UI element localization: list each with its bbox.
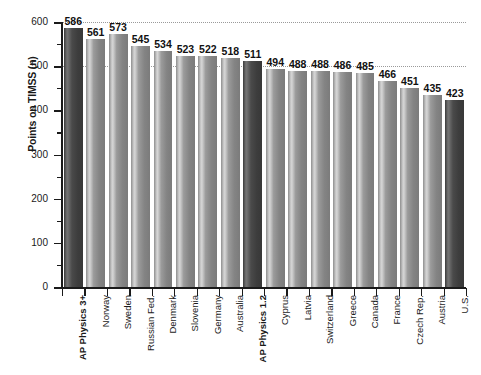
x-axis-label: Switzerland: [324, 295, 335, 344]
bar[interactable]: [311, 71, 330, 287]
x-tick: [197, 288, 198, 296]
bar[interactable]: [356, 73, 375, 287]
y-minor-tick-450: [57, 88, 61, 89]
y-minor-tick-250: [57, 177, 61, 178]
y-minor-tick-50: [57, 265, 61, 266]
bar[interactable]: [221, 58, 240, 287]
bar-group[interactable]: [176, 56, 195, 287]
bar-group[interactable]: [243, 61, 262, 287]
y-tick-label-200: 200: [8, 193, 48, 204]
x-tick: [286, 288, 287, 296]
bar[interactable]: [378, 81, 397, 287]
bar-group[interactable]: [198, 56, 217, 287]
x-tick: [152, 288, 153, 296]
x-tick: [264, 288, 265, 296]
bar-group[interactable]: [378, 81, 397, 287]
bar-chart: Points on TIMSS (n) 01002003004005006005…: [0, 0, 481, 375]
y-tick-label-0: 0: [8, 281, 48, 292]
bar[interactable]: [333, 72, 352, 287]
x-tick: [309, 288, 310, 296]
x-axis-label: Cyprus: [279, 295, 290, 325]
x-tick: [421, 288, 422, 296]
y-minor-tick-550: [57, 44, 61, 45]
x-axis-label: Greece: [347, 295, 358, 326]
y-tick-label-500: 500: [8, 60, 48, 71]
bar-group[interactable]: [154, 51, 173, 287]
x-tick: [107, 288, 108, 296]
x-tick: [219, 288, 220, 296]
y-tick-label-400: 400: [8, 104, 48, 115]
y-tick-label-600: 600: [8, 16, 48, 27]
x-axis-label: Australia: [234, 295, 245, 332]
x-tick: [84, 288, 85, 296]
y-tick-label-300: 300: [8, 149, 48, 160]
x-tick: [444, 288, 445, 296]
bar[interactable]: [131, 46, 150, 287]
x-tick: [129, 288, 130, 296]
y-tick-200: [54, 199, 61, 201]
bar[interactable]: [86, 39, 105, 287]
y-tick-label-100: 100: [8, 237, 48, 248]
x-axis-label: Norway: [100, 295, 111, 327]
bar[interactable]: [198, 56, 217, 287]
x-tick: [242, 288, 243, 296]
bar-group[interactable]: [266, 69, 285, 287]
x-axis-label: AP Physics 1.2: [257, 295, 268, 362]
x-axis-label: AP Physics 3+: [77, 295, 88, 360]
x-axis-label: Canada: [369, 295, 380, 328]
x-axis-label: Germany: [212, 295, 223, 334]
y-minor-tick-350: [57, 132, 61, 133]
bar-group[interactable]: [445, 100, 464, 287]
x-tick: [399, 288, 400, 296]
bar-group[interactable]: [356, 73, 375, 287]
bar-value-label: 423: [435, 87, 475, 99]
x-axis-label: U.S.: [459, 295, 470, 313]
bar[interactable]: [400, 88, 419, 287]
bar-value-label: 573: [98, 21, 138, 33]
bar-group[interactable]: [423, 95, 442, 287]
bar-group[interactable]: [333, 72, 352, 287]
x-axis-label: Latvia: [302, 295, 313, 320]
bar[interactable]: [109, 34, 128, 287]
x-axis-label: Slovenia: [189, 295, 200, 331]
y-tick-0: [54, 287, 61, 289]
y-tick-100: [54, 243, 61, 245]
y-minor-tick-150: [57, 221, 61, 222]
bar[interactable]: [445, 100, 464, 287]
bar[interactable]: [288, 71, 307, 287]
bar-group[interactable]: [109, 34, 128, 287]
bar-group[interactable]: [221, 58, 240, 287]
bar[interactable]: [154, 51, 173, 287]
x-axis-label: Russian Fed.: [145, 295, 156, 351]
x-tick: [376, 288, 377, 296]
bar[interactable]: [64, 28, 83, 287]
bar-group[interactable]: [64, 28, 83, 287]
bar[interactable]: [176, 56, 195, 287]
x-tick: [466, 288, 467, 296]
y-tick-400: [54, 110, 61, 112]
bar-group[interactable]: [311, 71, 330, 287]
x-axis-label: France: [391, 295, 402, 325]
x-axis-label: Austria: [436, 295, 447, 325]
bar-group[interactable]: [400, 88, 419, 287]
bar-group[interactable]: [288, 71, 307, 287]
y-tick-300: [54, 155, 61, 157]
bar[interactable]: [243, 61, 262, 287]
x-axis-label: Denmark: [167, 295, 178, 334]
bar[interactable]: [266, 69, 285, 287]
y-tick-500: [54, 66, 61, 68]
bar[interactable]: [423, 95, 442, 287]
x-axis-label: Czech Rep.: [414, 295, 425, 345]
bar-group[interactable]: [131, 46, 150, 287]
x-tick: [62, 288, 63, 296]
bar-group[interactable]: [86, 39, 105, 287]
x-tick: [354, 288, 355, 296]
x-axis-label: Sweden: [122, 295, 133, 329]
x-tick: [174, 288, 175, 296]
x-tick: [331, 288, 332, 296]
